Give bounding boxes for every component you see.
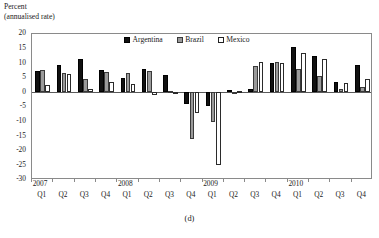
bar-mex[interactable]: [280, 63, 285, 92]
bar-arg[interactable]: [312, 56, 317, 93]
bar-bra[interactable]: [83, 79, 88, 92]
x-tick-quarter: Q1: [287, 191, 307, 199]
legend-item-arg[interactable]: Argentina: [124, 36, 163, 44]
y-tick-label: 20: [19, 29, 26, 36]
x-tick-quarter: Q2: [309, 191, 329, 199]
legend-swatch-icon: [177, 37, 183, 43]
bar-mex[interactable]: [344, 83, 349, 92]
bar-arg[interactable]: [121, 78, 126, 92]
legend-item-bra[interactable]: Brazil: [177, 36, 204, 44]
legend-label: Brazil: [185, 36, 204, 44]
bar-group: [245, 34, 266, 178]
bar-mex[interactable]: [237, 91, 242, 93]
plot-area: [31, 33, 372, 179]
x-tick-quarter: Q3: [160, 191, 180, 199]
bar-mex[interactable]: [301, 53, 306, 92]
bar-bra[interactable]: [40, 70, 45, 92]
bar-mex[interactable]: [88, 89, 93, 92]
figure-panel-d: Percent (annualised rate) 20151050-5-10-…: [0, 0, 379, 238]
bar-bra[interactable]: [253, 66, 258, 92]
bar-mex[interactable]: [173, 92, 178, 94]
bar-bra[interactable]: [275, 62, 280, 93]
bar-bra[interactable]: [317, 76, 322, 92]
x-tick-mark: [95, 179, 96, 182]
y-tick-label: 0: [22, 88, 26, 95]
y-axis-title-line2: (annualised rate): [4, 12, 55, 22]
bar-arg[interactable]: [184, 92, 189, 104]
bar-arg[interactable]: [35, 71, 40, 92]
x-tick-mark: [159, 179, 160, 182]
bar-bra[interactable]: [190, 92, 195, 139]
x-tick-mark: [138, 179, 139, 182]
bar-mex[interactable]: [259, 62, 264, 93]
bar-bra[interactable]: [339, 89, 344, 93]
bar-bra[interactable]: [62, 73, 67, 92]
bar-mex[interactable]: [67, 74, 72, 92]
bar-group: [160, 34, 181, 178]
bar-arg[interactable]: [227, 90, 232, 92]
bar-mex[interactable]: [109, 82, 114, 93]
bar-arg[interactable]: [99, 70, 104, 92]
bar-bra[interactable]: [360, 87, 365, 93]
x-axis-year-label: 2010: [288, 180, 303, 188]
bar-mex[interactable]: [152, 92, 157, 95]
legend-label: Argentina: [133, 36, 163, 44]
bar-bra[interactable]: [296, 69, 301, 92]
x-tick-quarter: Q1: [32, 191, 52, 199]
bar-arg[interactable]: [163, 75, 168, 93]
x-axis-labels: Q12007Q2Q3Q4Q12008Q2Q3Q4Q12009Q2Q3Q4Q120…: [31, 180, 372, 212]
figure-caption: (d): [0, 214, 379, 223]
bar-arg[interactable]: [206, 92, 211, 105]
bar-mex[interactable]: [45, 85, 50, 92]
bar-group: [53, 34, 74, 178]
bar-bra[interactable]: [104, 72, 109, 92]
x-tick-mark: [287, 179, 288, 182]
y-tick-label: 10: [19, 59, 26, 66]
bar-arg[interactable]: [78, 59, 83, 93]
x-tick-mark: [31, 179, 32, 182]
x-tick-mark: [223, 179, 224, 182]
bar-arg[interactable]: [142, 69, 147, 92]
bar-group: [139, 34, 160, 178]
chart-legend: ArgentinaBrazilMexico: [124, 36, 250, 44]
bar-mex[interactable]: [195, 92, 200, 112]
y-tick-label: 5: [22, 73, 26, 80]
x-tick-quarter: Q1: [202, 191, 222, 199]
bar-arg[interactable]: [355, 65, 360, 93]
bar-bra[interactable]: [211, 92, 216, 121]
bar-group: [288, 34, 309, 178]
bar-group: [309, 34, 330, 178]
bar-arg[interactable]: [291, 47, 296, 92]
bar-group: [224, 34, 245, 178]
x-tick-quarter: Q1: [117, 191, 137, 199]
bar-arg[interactable]: [248, 89, 253, 93]
x-tick-quarter: Q3: [74, 191, 94, 199]
x-tick-quarter: Q3: [330, 191, 350, 199]
bar-bra[interactable]: [232, 92, 237, 94]
bar-group: [32, 34, 53, 178]
x-tick-mark: [52, 179, 53, 182]
bar-bra[interactable]: [147, 71, 152, 92]
legend-label: Mexico: [226, 36, 249, 44]
legend-item-mex[interactable]: Mexico: [218, 36, 250, 44]
x-tick-mark: [180, 179, 181, 182]
bar-mex[interactable]: [131, 84, 136, 92]
x-tick-quarter: Q4: [181, 191, 201, 199]
y-tick-label: -15: [16, 132, 26, 139]
bar-arg[interactable]: [334, 82, 339, 92]
y-axis-title-line1: Percent: [4, 2, 27, 12]
x-tick-mark: [74, 179, 75, 182]
x-tick-quarter: Q2: [223, 191, 243, 199]
x-tick-mark: [265, 179, 266, 182]
bar-arg[interactable]: [57, 65, 62, 92]
bar-mex[interactable]: [216, 92, 221, 165]
bar-mex[interactable]: [322, 59, 327, 93]
x-tick-quarter: Q2: [53, 191, 73, 199]
x-axis-year-label: 2008: [118, 180, 133, 188]
x-tick-mark: [351, 179, 352, 182]
bar-bra[interactable]: [126, 73, 131, 93]
x-axis-year-label: 2007: [33, 180, 48, 188]
bar-bra[interactable]: [168, 91, 173, 93]
bar-arg[interactable]: [270, 63, 275, 92]
bar-mex[interactable]: [365, 79, 370, 92]
